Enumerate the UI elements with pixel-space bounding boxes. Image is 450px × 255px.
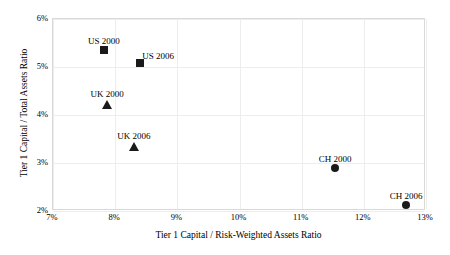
x-tick-label: 10% [219, 212, 259, 222]
x-tick-label: 7% [32, 212, 72, 222]
gridline-vertical [364, 19, 365, 209]
data-point-label-ch-2000: CH 2000 [319, 154, 352, 164]
gridline-horizontal [53, 19, 424, 20]
data-point-label-us-2000: US 2000 [88, 36, 120, 46]
gridline-vertical [53, 19, 54, 209]
gridline-horizontal [53, 163, 424, 164]
gridline-horizontal [53, 115, 424, 116]
x-tick-label: 12% [343, 212, 383, 222]
x-axis-tick-labels: 7%8%9%10%11%12%13% [52, 212, 425, 226]
data-point-label-uk-2000: UK 2000 [90, 89, 123, 99]
scatter-chart: US 2000US 2006UK 2000UK 2006CH 2000CH 20… [0, 0, 450, 255]
data-point-ch-2000 [331, 164, 339, 172]
data-point-label-uk-2006: UK 2006 [117, 131, 150, 141]
x-tick-label: 13% [405, 212, 445, 222]
data-point-ch-2006 [402, 201, 410, 209]
gridline-vertical [426, 19, 427, 209]
gridline-vertical [240, 19, 241, 209]
data-point-us-2000 [100, 46, 108, 54]
gridline-horizontal [53, 67, 424, 68]
x-tick-label: 11% [281, 212, 321, 222]
y-axis-title: Tier 1 Capital / Total Assets Ratio [18, 13, 30, 213]
x-axis-title: Tier 1 Capital / Risk-Weighted Assets Ra… [52, 229, 425, 241]
data-point-uk-2000 [102, 100, 112, 109]
gridline-vertical [115, 19, 116, 209]
x-tick-label: 8% [94, 212, 134, 222]
gridline-vertical [302, 19, 303, 209]
plot-area: US 2000US 2006UK 2000UK 2006CH 2000CH 20… [52, 18, 425, 210]
gridline-vertical [177, 19, 178, 209]
x-tick-label: 9% [156, 212, 196, 222]
data-point-uk-2006 [129, 142, 139, 151]
data-point-label-us-2006: US 2006 [142, 51, 174, 61]
data-point-label-ch-2006: CH 2006 [390, 191, 423, 201]
